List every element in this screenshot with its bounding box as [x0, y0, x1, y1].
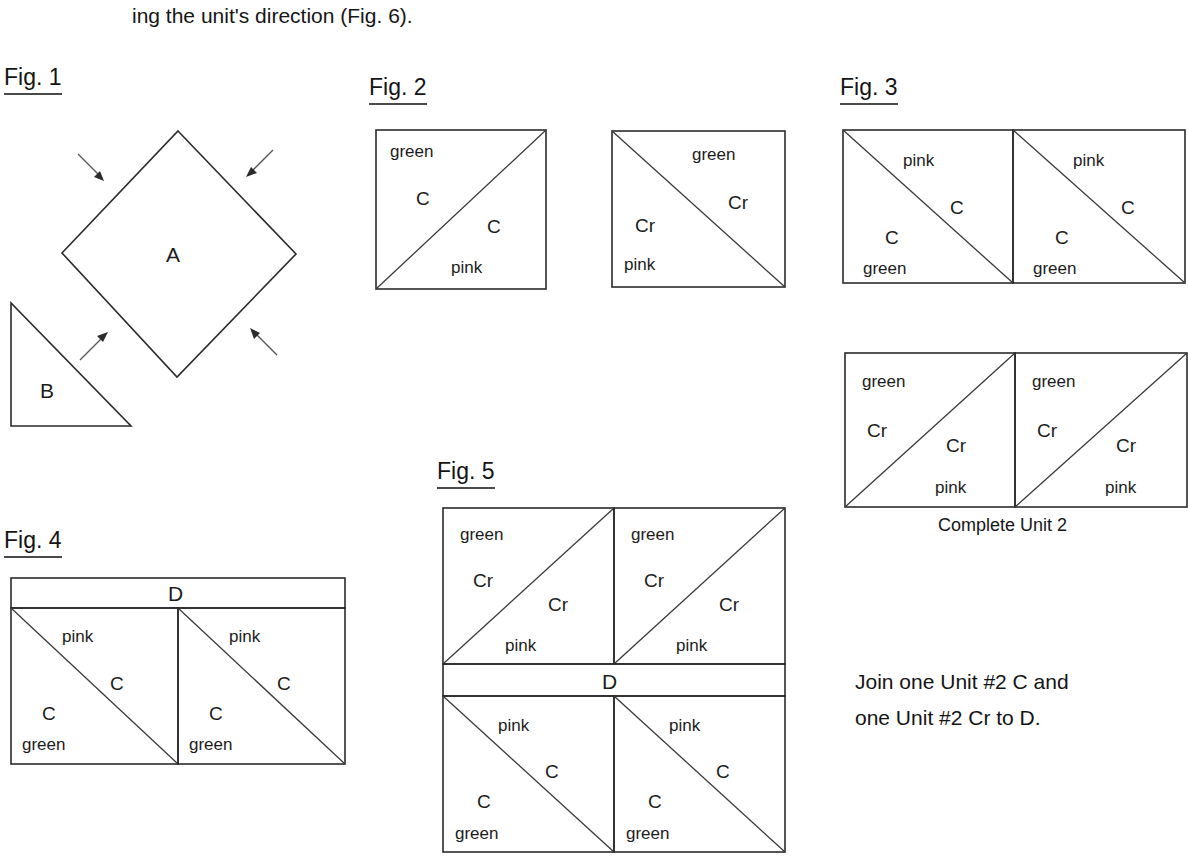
fig4-square-1-upper-fabric: pink	[62, 627, 94, 646]
fig3-bottom-2-upper-code: Cr	[1037, 420, 1058, 441]
fig5-strip-label: D	[602, 670, 617, 693]
fig3-bottom-1-lower-code: Cr	[946, 435, 967, 456]
fig3-top-square-1: pink C C green	[843, 130, 1013, 283]
fig4-label: Fig. 4	[4, 527, 62, 561]
fig5-bottom-square-2: pink C C green	[614, 696, 785, 852]
fig3-top-square-2: pink C C green	[1013, 130, 1185, 283]
fig5-bottom-1-lower-code: C	[477, 791, 491, 812]
fig5-bottom-2-upper-fabric: pink	[669, 716, 701, 735]
fig2-left-upper-code: C	[416, 188, 430, 209]
fig1-diamond-label: A	[166, 243, 180, 266]
fig3-top-1-lower-code: C	[885, 227, 899, 248]
fig3-bottom-1-upper-fabric: green	[862, 372, 905, 391]
fig3-top-row: pink C C green pink C C green	[840, 125, 1188, 290]
fig3-caption: Complete Unit 2	[938, 515, 1067, 536]
intro-paragraph: ing the unit's direction (Fig. 6).	[132, 2, 413, 30]
fig4-square-2-lower-fabric: green	[189, 735, 232, 754]
fig2-right-upper-code: Cr	[728, 192, 749, 213]
fig4-strip-label: D	[168, 582, 183, 605]
fig3-bottom-1-lower-fabric: pink	[935, 478, 967, 497]
fig3-bottom-square-2: green Cr Cr pink	[1015, 353, 1187, 507]
fig4-square-2-upper-code: C	[277, 673, 291, 694]
fig5-top-1-upper-code: Cr	[473, 570, 494, 591]
fig2-label: Fig. 2	[369, 74, 427, 108]
fig5-top-1-lower-fabric: pink	[505, 636, 537, 655]
fig2-left-lower-code: C	[487, 216, 501, 237]
fig2-right-lower-code: Cr	[635, 215, 656, 236]
fig3-top-2-upper-fabric: pink	[1073, 151, 1105, 170]
fig2-drawing: green C C pink green Cr Cr pink	[370, 125, 795, 300]
fig3-top-2-lower-code: C	[1055, 227, 1069, 248]
fig1-arrow-bottom-left-icon	[80, 332, 108, 360]
fig4-square-1-lower-code: C	[42, 703, 56, 724]
fig5-top-2-lower-code: Cr	[719, 594, 740, 615]
fig5-bottom-2-lower-code: C	[648, 791, 662, 812]
fig3-bottom-2-lower-fabric: pink	[1105, 478, 1137, 497]
fig3-bottom-2-upper-fabric: green	[1032, 372, 1075, 391]
fig1-label-text: Fig. 1	[4, 64, 62, 90]
fig3-bottom-row: green Cr Cr pink green Cr Cr pink	[840, 348, 1188, 513]
fig4-square-1-upper-code: C	[110, 673, 124, 694]
fig4-square-2: pink C C green	[178, 608, 345, 764]
fig3-bottom-2-lower-code: Cr	[1116, 435, 1137, 456]
fig3-top-2-upper-code: C	[1121, 197, 1135, 218]
fig4-square-1-lower-fabric: green	[22, 735, 65, 754]
fig1-label-underline	[4, 93, 62, 95]
fig5-top-1-upper-fabric: green	[460, 525, 503, 544]
fig4-square-2-lower-code: C	[209, 703, 223, 724]
fig5-strip-d: D	[443, 664, 785, 696]
fig5-bottom-1-upper-fabric: pink	[498, 716, 530, 735]
fig1-triangle-label: B	[40, 379, 54, 402]
fig1-label: Fig. 1	[4, 64, 62, 98]
fig3-top-1-upper-code: C	[950, 197, 964, 218]
fig5-top-square-2: green Cr Cr pink	[614, 508, 785, 664]
fig5-top-2-upper-fabric: green	[631, 525, 674, 544]
fig5-bottom-square-1: pink C C green	[443, 696, 614, 852]
fig3-label-text: Fig. 3	[840, 74, 898, 100]
join-instruction-line-2: one Unit #2 Cr to D.	[855, 700, 1041, 736]
fig5-bottom-2-upper-code: C	[716, 761, 730, 782]
fig5-top-2-lower-fabric: pink	[676, 636, 708, 655]
fig2-left-upper-fabric: green	[390, 142, 433, 161]
fig5-bottom-1-upper-code: C	[545, 761, 559, 782]
fig1-arrow-top-left-icon	[78, 154, 104, 181]
fig1-drawing: A B	[0, 110, 340, 440]
fig4-square-1: pink C C green	[11, 608, 178, 764]
fig1-triangle-b	[11, 303, 131, 426]
fig2-right-square: green Cr Cr pink	[612, 131, 785, 287]
fig5-label: Fig. 5	[437, 458, 495, 492]
fig2-left-lower-fabric: pink	[451, 258, 483, 277]
fig3-label-underline	[840, 103, 898, 105]
fig5-bottom-2-lower-fabric: green	[626, 824, 669, 843]
fig3-bottom-square-1: green Cr Cr pink	[845, 353, 1015, 507]
fig4-strip-d: D	[11, 578, 345, 608]
fig2-left-square: green C C pink	[376, 130, 546, 289]
join-instruction-line-1: Join one Unit #2 C and	[855, 664, 1069, 700]
fig3-top-2-lower-fabric: green	[1033, 259, 1076, 278]
fig4-label-underline	[4, 556, 62, 558]
fig4-square-2-upper-fabric: pink	[229, 627, 261, 646]
fig5-bottom-1-lower-fabric: green	[455, 824, 498, 843]
fig5-top-square-1: green Cr Cr pink	[443, 508, 614, 664]
fig1-arrow-bottom-right-icon	[250, 328, 277, 355]
fig1-arrow-top-right-icon	[246, 150, 273, 177]
fig2-right-upper-fabric: green	[692, 145, 735, 164]
fig5-label-text: Fig. 5	[437, 458, 495, 484]
fig2-right-lower-fabric: pink	[624, 255, 656, 274]
fig2-label-underline	[369, 103, 427, 105]
fig5-top-1-lower-code: Cr	[548, 594, 569, 615]
fig3-label: Fig. 3	[840, 74, 898, 108]
fig3-bottom-1-upper-code: Cr	[867, 420, 888, 441]
fig5-top-2-upper-code: Cr	[644, 570, 665, 591]
fig5-label-underline	[437, 487, 495, 489]
fig3-top-1-upper-fabric: pink	[903, 151, 935, 170]
fig3-top-1-lower-fabric: green	[863, 259, 906, 278]
fig4-label-text: Fig. 4	[4, 527, 62, 553]
fig4-drawing: D pink C C green pink C C green	[0, 572, 360, 772]
fig5-drawing: green Cr Cr pink green Cr Cr pink D pink…	[435, 503, 795, 858]
fig2-label-text: Fig. 2	[369, 74, 427, 100]
